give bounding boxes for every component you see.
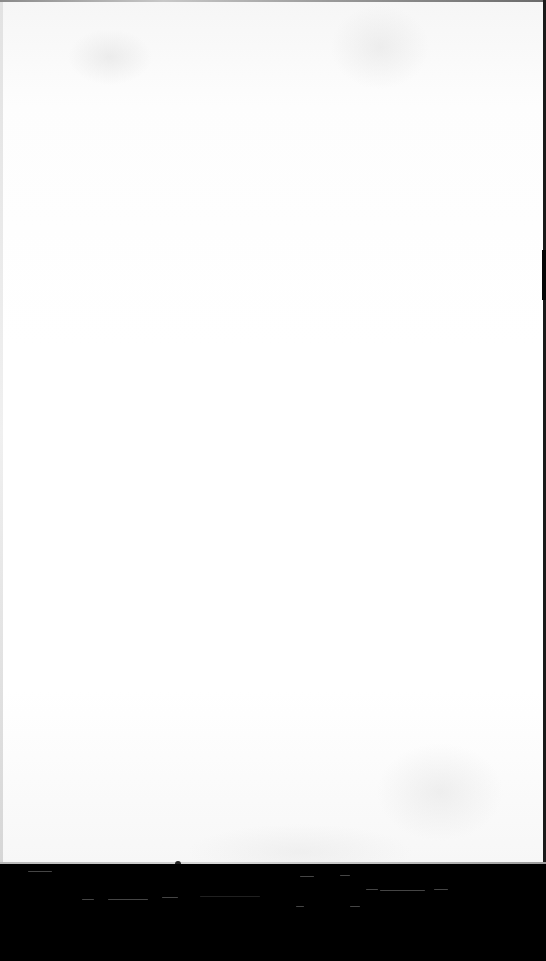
blank-paper-sheet [0, 2, 544, 864]
surface-reflection [434, 889, 448, 890]
right-edge-shadow [542, 250, 546, 300]
surface-reflection [296, 906, 304, 907]
surface-reflection [300, 876, 314, 877]
paper-left-shadow [0, 2, 3, 864]
surface-reflection [82, 899, 94, 900]
surface-reflection [350, 906, 360, 907]
dark-surface [0, 864, 546, 961]
photo-scene [0, 0, 546, 961]
surface-reflection [366, 889, 378, 890]
surface-reflection [28, 871, 52, 872]
surface-reflection [108, 899, 148, 900]
surface-reflection [200, 896, 260, 897]
surface-reflection [380, 890, 425, 891]
surface-reflection [340, 875, 350, 876]
surface-reflection [162, 897, 178, 898]
